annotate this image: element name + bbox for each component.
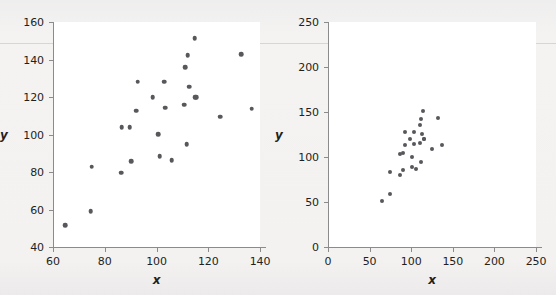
- x-axis-tick-label: 50: [363, 255, 377, 268]
- data-point: [90, 164, 95, 169]
- data-point: [388, 192, 392, 196]
- data-point: [412, 130, 416, 134]
- data-point: [127, 125, 132, 130]
- data-point: [162, 79, 167, 84]
- scatterplot-figure: 4060801001201401606080100120140xy 050100…: [0, 0, 556, 295]
- data-point: [239, 52, 244, 57]
- data-point: [183, 65, 188, 70]
- x-axis-tick: [105, 248, 106, 252]
- data-point: [185, 53, 190, 58]
- data-point: [249, 106, 254, 111]
- data-point: [88, 209, 93, 214]
- x-axis-title: x: [428, 273, 436, 287]
- x-axis-tick: [328, 248, 329, 252]
- data-point: [419, 160, 423, 164]
- data-point: [156, 132, 161, 137]
- data-point: [163, 106, 168, 111]
- chart-panel-left: 4060801001201401606080100120140xy: [0, 0, 278, 295]
- x-axis-line: [53, 247, 266, 248]
- data-point: [380, 199, 384, 203]
- y-axis-tick: [49, 135, 53, 136]
- x-axis-tick-label: 150: [442, 255, 463, 268]
- y-axis-tick-label: 80: [11, 166, 44, 179]
- y-axis-tick: [324, 112, 328, 113]
- data-point: [421, 109, 425, 113]
- x-axis-tick-label: 100: [146, 255, 167, 268]
- data-point: [184, 142, 189, 147]
- data-point: [187, 85, 192, 90]
- data-point: [194, 95, 199, 100]
- x-axis-title: x: [153, 273, 161, 287]
- data-point: [410, 155, 414, 159]
- data-point: [420, 132, 424, 136]
- y-axis-tick-label: 120: [11, 91, 44, 104]
- y-axis-tick-label: 140: [11, 53, 44, 66]
- data-point: [192, 36, 197, 41]
- y-axis-tick-label: 40: [11, 241, 44, 254]
- y-axis-tick-label: 150: [286, 106, 319, 119]
- data-point: [169, 158, 174, 163]
- x-axis-tick: [53, 248, 54, 252]
- x-axis-tick: [260, 248, 261, 252]
- data-point: [63, 223, 68, 228]
- y-axis-title: y: [275, 128, 283, 142]
- data-point: [401, 168, 405, 172]
- x-axis-tick: [208, 248, 209, 252]
- y-axis-tick-label: 0: [286, 241, 319, 254]
- y-axis-tick: [49, 22, 53, 23]
- y-axis-tick: [49, 60, 53, 61]
- data-point: [412, 142, 416, 146]
- y-axis-tick: [49, 210, 53, 211]
- data-point: [129, 159, 134, 164]
- data-point: [436, 116, 440, 120]
- data-point: [388, 170, 392, 174]
- y-axis-tick-label: 100: [11, 128, 44, 141]
- data-point: [182, 102, 187, 107]
- y-axis-tick: [324, 202, 328, 203]
- x-axis-tick: [157, 248, 158, 252]
- x-axis-tick-label: 0: [325, 255, 332, 268]
- y-axis-title: y: [0, 128, 8, 142]
- data-point: [414, 167, 418, 171]
- data-point: [403, 130, 407, 134]
- x-axis-tick-label: 250: [526, 255, 547, 268]
- data-point: [218, 115, 223, 120]
- y-axis-line: [53, 22, 54, 248]
- y-axis-tick-label: 60: [11, 203, 44, 216]
- x-axis-tick-label: 140: [250, 255, 271, 268]
- data-point: [401, 151, 405, 155]
- x-axis-tick-label: 100: [401, 255, 422, 268]
- x-axis-tick: [370, 248, 371, 252]
- y-axis-tick-label: 50: [286, 196, 319, 209]
- plot-area: [328, 22, 536, 247]
- y-axis-line: [328, 22, 329, 248]
- data-point: [430, 147, 434, 151]
- y-axis-tick: [324, 157, 328, 158]
- x-axis-tick: [411, 248, 412, 252]
- x-axis-tick-label: 200: [484, 255, 505, 268]
- data-point: [151, 95, 156, 100]
- x-axis-tick-label: 120: [198, 255, 219, 268]
- data-point: [418, 141, 422, 145]
- data-point: [119, 170, 124, 175]
- x-axis-tick-label: 80: [98, 255, 112, 268]
- data-point: [419, 117, 423, 121]
- data-point: [440, 143, 444, 147]
- y-axis-tick-label: 100: [286, 151, 319, 164]
- x-axis-tick: [536, 248, 537, 252]
- y-axis-tick-label: 160: [11, 16, 44, 29]
- data-point: [403, 143, 407, 147]
- y-axis-tick: [49, 172, 53, 173]
- data-point: [398, 173, 402, 177]
- chart-panel-right: 050100150200250050100150200250xy: [278, 0, 556, 295]
- data-point: [136, 79, 141, 84]
- y-axis-tick: [49, 97, 53, 98]
- x-axis-tick: [494, 248, 495, 252]
- data-point: [157, 154, 162, 159]
- y-axis-tick: [324, 22, 328, 23]
- data-point: [422, 137, 426, 141]
- data-point: [418, 123, 422, 127]
- x-axis-tick: [453, 248, 454, 252]
- data-point: [120, 125, 125, 130]
- x-axis-tick-label: 60: [46, 255, 60, 268]
